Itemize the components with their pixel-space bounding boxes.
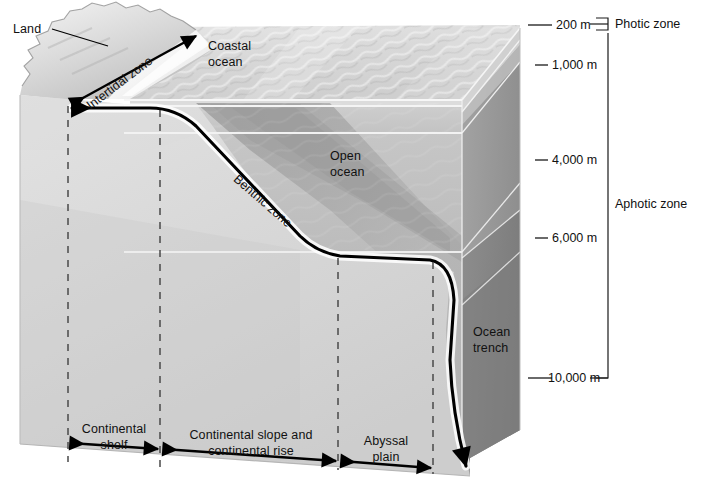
depth-label-200m: 200 m bbox=[556, 18, 591, 32]
label-abyssal-plain-line1: Abyssal bbox=[344, 434, 428, 448]
depth-label-4000m: 4,000 m bbox=[552, 153, 597, 167]
label-ocean-trench-line1: Ocean bbox=[473, 325, 510, 339]
label-continental-shelf-line1: Continental bbox=[64, 422, 164, 436]
label-continental-shelf-line2: shelf bbox=[64, 438, 164, 452]
label-continental-slope-line2: continental rise bbox=[178, 444, 324, 458]
block-right-side-face bbox=[462, 28, 520, 476]
aphotic-bracket bbox=[596, 33, 608, 378]
label-coastal-ocean-line1: Coastal bbox=[208, 39, 251, 53]
depth-label-10000m: 10,000 m bbox=[548, 371, 600, 385]
label-land: Land bbox=[13, 22, 41, 36]
label-open-ocean-line2: ocean bbox=[330, 165, 365, 179]
depth-label-1000m: 1,000 m bbox=[552, 58, 597, 72]
label-photic-zone: Photic zone bbox=[615, 17, 680, 31]
depth-scale-axis bbox=[528, 18, 608, 378]
diagram-canvas: Land Intertidal zone Coastal ocean Open … bbox=[0, 0, 707, 504]
label-ocean-trench-line2: trench bbox=[473, 341, 508, 355]
label-coastal-ocean-line2: ocean bbox=[208, 55, 243, 69]
label-continental-slope-line1: Continental slope and bbox=[178, 428, 324, 442]
label-aphotic-zone: Aphotic zone bbox=[615, 197, 687, 211]
label-abyssal-plain-line2: plain bbox=[344, 450, 428, 464]
depth-label-6000m: 6,000 m bbox=[552, 231, 597, 245]
label-open-ocean-line1: Open bbox=[330, 149, 361, 163]
